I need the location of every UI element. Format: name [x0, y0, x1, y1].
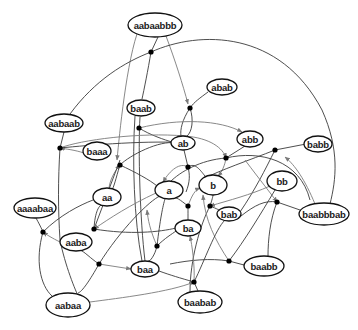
edge: [268, 202, 277, 256]
node-label: aabaab: [48, 118, 80, 129]
directed-edge: [147, 210, 157, 246]
node-aabaabbb: aabaabbb: [128, 13, 182, 37]
node-label: abab: [211, 82, 233, 93]
edge: [241, 202, 277, 216]
node-a: a: [155, 181, 183, 199]
node-bab: bab: [217, 207, 241, 221]
directed-edge: [203, 195, 229, 261]
node-baaa: baaa: [83, 142, 111, 160]
edge: [80, 250, 99, 264]
edge: [134, 116, 142, 261]
node-baabbbab: baabbbab: [299, 203, 349, 225]
junction-dot: [207, 203, 212, 208]
edge: [184, 150, 188, 167]
node-baa: baa: [131, 261, 159, 277]
junction-dot: [274, 199, 279, 204]
edge: [148, 246, 157, 261]
node-aa: aa: [93, 188, 121, 206]
junction-dot: [223, 155, 228, 160]
node-label: baabbbab: [302, 209, 346, 220]
node-baab: baab: [127, 100, 155, 116]
node-label: babb: [307, 139, 329, 150]
edge: [157, 199, 165, 246]
junction-dot: [57, 145, 62, 150]
junction-dot: [148, 49, 153, 54]
junction-dot: [187, 105, 192, 110]
node-aaaabaa: aaaabaa: [14, 198, 56, 218]
edge: [275, 144, 306, 150]
directed-edge: [60, 148, 84, 153]
node-label: ba: [183, 223, 195, 234]
edge: [39, 232, 52, 296]
node-b: b: [199, 175, 227, 195]
junction-dot: [226, 258, 231, 263]
node-label: baabb: [251, 261, 278, 272]
edge: [120, 143, 175, 165]
node-label: aabaabbb: [134, 20, 177, 31]
directed-edge: [166, 36, 188, 104]
directed-edge: [218, 158, 226, 176]
junction-dot: [191, 279, 196, 284]
edge: [94, 228, 176, 232]
node-label: bab: [221, 209, 238, 220]
node-label: abb: [242, 134, 259, 145]
node-abb: abb: [237, 131, 263, 147]
junction-dot: [185, 164, 190, 169]
edge: [190, 206, 210, 292]
node-abab: abab: [207, 79, 237, 95]
junction-dot: [136, 125, 141, 130]
node-label: baab: [130, 103, 152, 114]
edge: [157, 231, 176, 246]
directed-edge: [163, 165, 188, 182]
node-label: b: [210, 180, 216, 191]
node-label: baabab: [184, 297, 216, 308]
node-babb: babb: [304, 136, 332, 152]
node-label: baaa: [87, 146, 109, 157]
node-aaba: aaba: [60, 233, 92, 251]
node-bb: bb: [267, 171, 297, 191]
node-label: aaba: [66, 237, 88, 248]
node-label: baa: [137, 264, 154, 275]
node-label: aabaa: [55, 300, 82, 311]
hypergraph-diagram: aabaabbbababbaabaabaabababbbabbbaaaabbba…: [0, 0, 358, 330]
junction-dot: [272, 147, 277, 152]
node-baabb: baabb: [244, 256, 284, 276]
edge: [186, 167, 189, 192]
node-label: ab: [178, 138, 189, 149]
edge: [120, 165, 157, 186]
directed-edge: [188, 188, 200, 206]
node-label: bb: [276, 176, 288, 187]
junction-dot: [185, 203, 190, 208]
node-label: aa: [102, 192, 113, 203]
edge: [170, 260, 229, 264]
edge: [78, 264, 99, 293]
node-baabab: baabab: [178, 291, 222, 313]
node-aabaab: aabaab: [45, 114, 83, 132]
edge: [190, 92, 208, 108]
edge: [142, 37, 158, 99]
junction-dot: [154, 243, 159, 248]
directed-edge: [99, 264, 131, 269]
directed-edge: [43, 232, 60, 242]
node-ba: ba: [175, 220, 201, 236]
edge: [277, 202, 300, 210]
edge: [139, 117, 145, 261]
edge: [159, 271, 194, 282]
node-label: aaaabaa: [17, 203, 54, 214]
junction-dot: [117, 162, 122, 167]
junction-dot: [96, 261, 101, 266]
edges-layer: [36, 34, 335, 302]
junction-dot: [91, 226, 96, 231]
node-ab: ab: [171, 136, 195, 150]
node-aabaa: aabaa: [46, 293, 90, 317]
nodes-layer: aabaabbbababbaabaabaabababbbabbbaaaabbba…: [14, 13, 349, 317]
junction-dot: [40, 229, 45, 234]
